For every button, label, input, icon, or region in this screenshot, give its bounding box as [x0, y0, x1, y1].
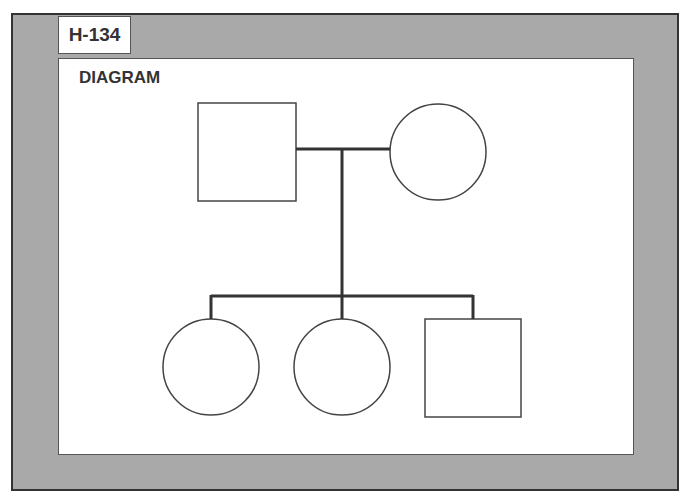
parent-male-square [198, 103, 296, 201]
parent-female-circle [390, 104, 486, 200]
pedigree-diagram [0, 0, 688, 501]
child-female-circle-2 [294, 319, 390, 415]
child-male-square [425, 319, 521, 417]
child-female-circle-1 [163, 319, 259, 415]
